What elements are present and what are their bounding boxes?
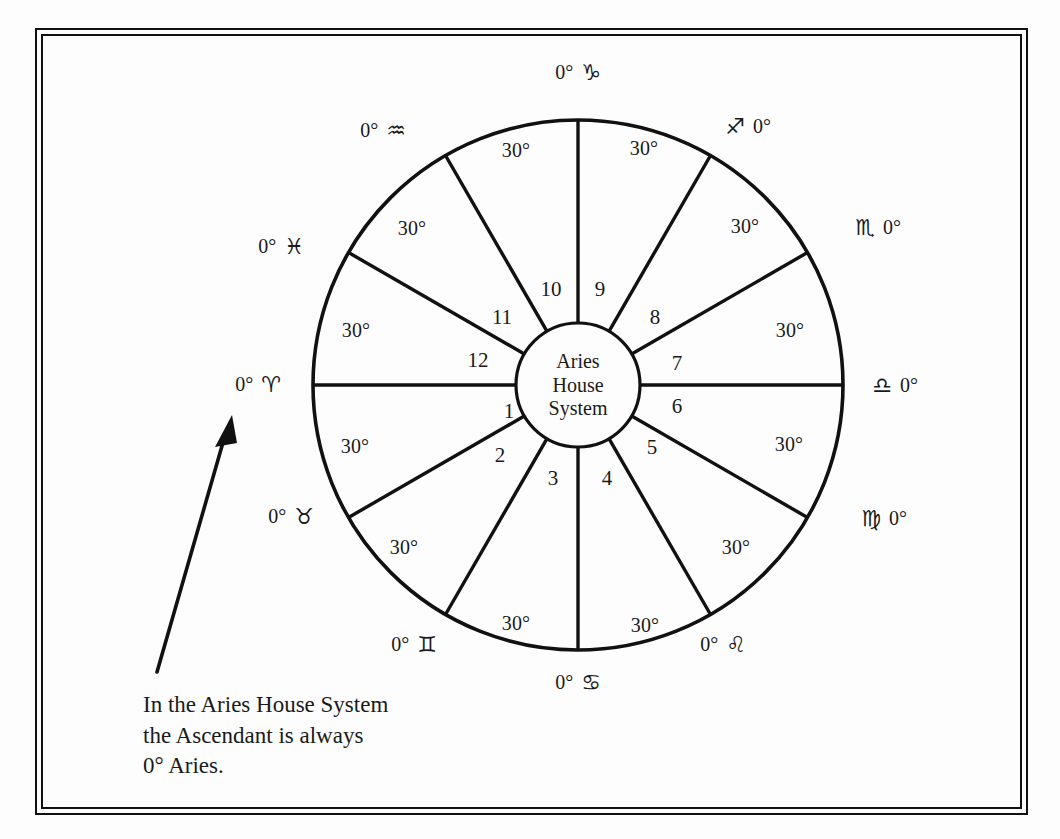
figure-caption: In the Aries House System the Ascendant …	[143, 690, 573, 782]
house-cusp-line-9	[609, 439, 711, 615]
house-cusp-line-2	[349, 253, 525, 355]
caption-line-2: the Ascendant is always	[143, 721, 573, 752]
house-cusp-line-5	[609, 156, 711, 332]
house-cusp-line-11	[446, 439, 548, 615]
house-cusp-line-12	[349, 416, 525, 518]
center-label-line-2: House	[518, 373, 638, 397]
center-label-line-1: Aries	[518, 350, 638, 374]
wheel-center-label: Aries House System	[518, 350, 638, 421]
ascendant-pointer-arrow	[157, 415, 237, 672]
caption-line-3: 0° Aries.	[143, 751, 573, 782]
house-cusp-line-6	[632, 253, 808, 355]
house-cusp-line-3	[446, 156, 548, 332]
caption-line-1: In the Aries House System	[143, 690, 573, 721]
center-label-line-3: System	[518, 397, 638, 421]
house-cusp-line-8	[632, 416, 808, 518]
